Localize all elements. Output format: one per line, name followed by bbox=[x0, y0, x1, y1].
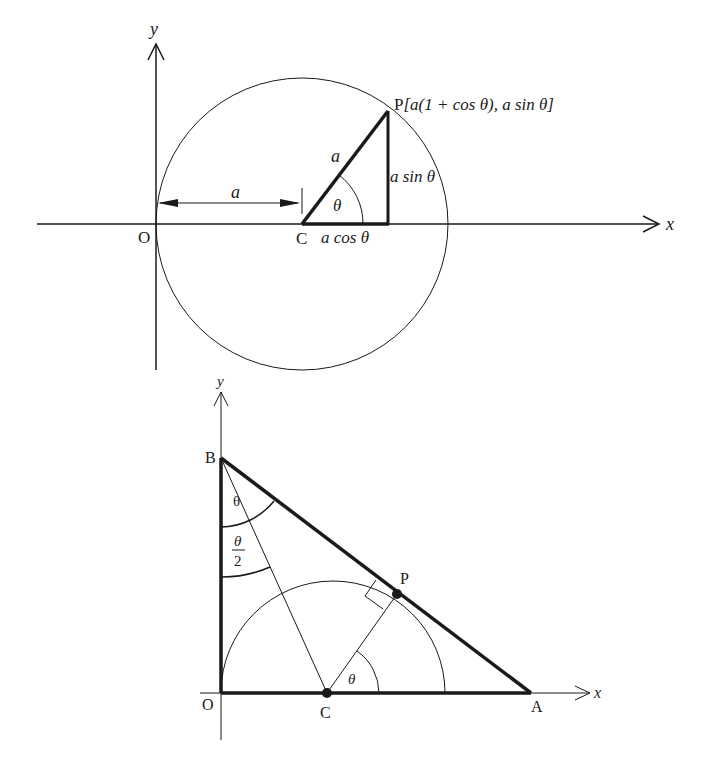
point-p-dot bbox=[392, 589, 402, 599]
bottom-x-label: x bbox=[593, 684, 601, 701]
top-origin-label: O bbox=[138, 228, 150, 247]
diagram-canvas: y x O C a cos θ a sin θ a θ a P[a(1 + co… bbox=[0, 0, 701, 768]
angle-b-full-label: θ bbox=[233, 493, 240, 509]
top-angle-arc bbox=[339, 175, 363, 224]
angle-arc-b-inner bbox=[221, 567, 270, 577]
tangent-point-label: P bbox=[400, 570, 409, 587]
angle-arc-c bbox=[357, 651, 379, 693]
top-opposite-label: a sin θ bbox=[390, 167, 435, 186]
angle-b-half-numerator: θ bbox=[234, 533, 242, 549]
bottom-semicircle bbox=[221, 581, 445, 693]
top-x-label: x bbox=[665, 214, 674, 234]
right-angle-marker bbox=[365, 580, 383, 609]
top-point-label: P[a(1 + cos θ), a sin θ] bbox=[394, 95, 554, 114]
top-point-coords: [a(1 + cos θ), a sin θ] bbox=[403, 95, 553, 114]
top-point-letter: P bbox=[394, 95, 403, 114]
dimension-arrow-left-icon bbox=[158, 199, 178, 207]
vertex-a-label: A bbox=[531, 698, 543, 715]
hypotenuse-ab bbox=[221, 458, 531, 693]
top-y-label: y bbox=[148, 19, 158, 39]
angle-c-label: θ bbox=[348, 671, 356, 687]
bottom-figure bbox=[200, 392, 590, 740]
angle-arc-b-outer bbox=[221, 501, 274, 527]
bottom-origin-label: O bbox=[202, 696, 214, 713]
bottom-y-label: y bbox=[215, 373, 224, 389]
top-center-label: C bbox=[296, 229, 307, 248]
radius-cp bbox=[302, 111, 388, 224]
top-angle-label: θ bbox=[333, 196, 341, 215]
radius-cp-bottom bbox=[327, 594, 397, 693]
top-adjacent-label: a cos θ bbox=[321, 228, 369, 247]
top-figure bbox=[37, 44, 659, 370]
point-c-dot bbox=[322, 688, 332, 698]
dimension-arrow-right-icon bbox=[280, 199, 300, 207]
angle-b-half-denominator: 2 bbox=[234, 553, 242, 569]
vertex-b-label: B bbox=[205, 449, 216, 466]
bottom-center-label: C bbox=[320, 704, 331, 721]
top-dimension-label: a bbox=[231, 182, 240, 202]
top-radius-label: a bbox=[331, 146, 340, 166]
